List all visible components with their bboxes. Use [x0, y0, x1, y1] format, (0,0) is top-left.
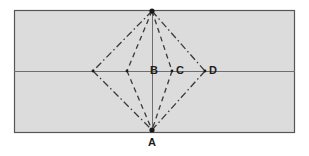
- vertex-marker-c: [171, 70, 174, 73]
- rhombus-diagram: B C D A: [0, 0, 309, 156]
- label-c: C: [176, 64, 184, 76]
- figure-container: B C D A: [0, 0, 309, 156]
- vertex-marker-apex-top: [149, 8, 154, 13]
- label-a: A: [148, 136, 156, 148]
- vertex-marker-left-outer: [92, 70, 95, 73]
- label-d: D: [209, 64, 217, 76]
- vertex-marker-apex-bottom: [149, 127, 154, 132]
- vertex-marker-d: [204, 70, 207, 73]
- label-b: B: [150, 64, 158, 76]
- vertex-marker-left-inner: [126, 70, 129, 73]
